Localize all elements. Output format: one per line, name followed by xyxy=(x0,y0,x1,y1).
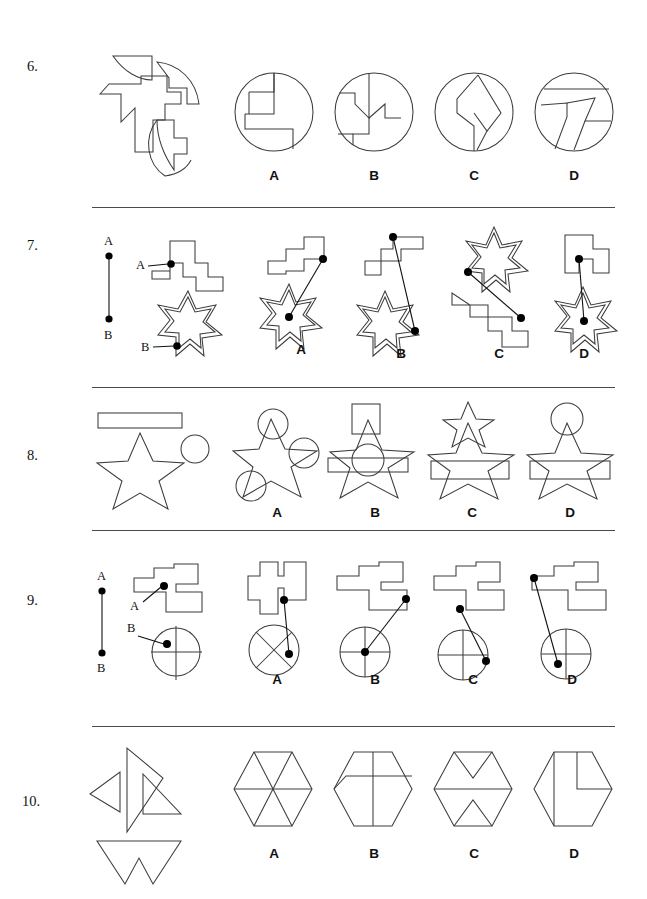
q7-option-a-figure[interactable] xyxy=(258,229,348,359)
q10-option-b-letter: B xyxy=(362,846,386,861)
q10-option-c-figure[interactable] xyxy=(432,748,514,830)
q9-option-d-letter: D xyxy=(560,672,584,687)
q7-option-d-figure[interactable] xyxy=(545,225,630,360)
q7-option-a-letter: A xyxy=(289,342,313,357)
question-number-10: 10. xyxy=(22,793,40,810)
q9-ref-label-a: A xyxy=(97,569,106,583)
q7-option-c-letter: C xyxy=(487,346,511,361)
q8-option-d-figure[interactable] xyxy=(522,399,617,504)
q6-option-d-figure[interactable] xyxy=(533,71,615,153)
question-9-row: 9. A B A B xyxy=(0,530,647,726)
q9-option-c-letter: C xyxy=(461,672,485,687)
q10-option-c-letter: C xyxy=(462,846,486,861)
q7-option-b-figure[interactable] xyxy=(355,225,445,360)
q9-source-figure: A B xyxy=(126,560,221,685)
q6-option-d-letter: D xyxy=(562,168,586,183)
q8-source-figure xyxy=(93,405,213,510)
q8-option-d-letter: D xyxy=(558,505,582,520)
q7-reference-segment: A B xyxy=(95,229,135,349)
q7-ref-label-a: A xyxy=(104,234,113,248)
question-7-row: 7. A B A B xyxy=(0,207,647,387)
q10-option-d-letter: D xyxy=(562,846,586,861)
q8-option-b-letter: B xyxy=(363,505,387,520)
q9-option-a-letter: A xyxy=(265,672,289,687)
q10-option-a-figure[interactable] xyxy=(232,748,314,830)
q9-option-d-figure[interactable] xyxy=(528,558,618,683)
q10-option-a-letter: A xyxy=(262,846,286,861)
question-10-row: 10. A xyxy=(0,726,647,899)
q10-source-figure xyxy=(85,744,195,884)
q9-option-a-figure[interactable] xyxy=(238,558,318,683)
q7-source-figure: A B xyxy=(130,229,235,359)
q9-option-b-letter: B xyxy=(363,672,387,687)
q8-option-c-figure[interactable] xyxy=(424,399,519,504)
q6-option-b-figure[interactable] xyxy=(333,71,415,153)
q9-source-label-a: A xyxy=(130,599,139,613)
q9-source-label-b: B xyxy=(127,621,135,635)
question-number-7: 7. xyxy=(27,237,38,254)
q7-source-label-b: B xyxy=(141,340,149,354)
worksheet-page: 6. A xyxy=(0,0,647,899)
question-8-row: 8. A xyxy=(0,387,647,530)
q9-option-b-figure[interactable] xyxy=(333,558,418,683)
question-number-9: 9. xyxy=(27,592,38,609)
q6-option-b-letter: B xyxy=(362,168,386,183)
q6-source-figure xyxy=(95,42,210,187)
q7-source-label-a: A xyxy=(136,258,145,272)
q7-option-d-letter: D xyxy=(572,346,596,361)
question-6-row: 6. A xyxy=(0,0,647,207)
q8-option-b-figure[interactable] xyxy=(326,402,421,502)
q9-ref-label-b: B xyxy=(97,661,105,675)
q9-option-c-figure[interactable] xyxy=(430,558,515,683)
q6-option-a-letter: A xyxy=(262,168,286,183)
q6-option-c-figure[interactable] xyxy=(433,71,515,153)
q8-option-a-figure[interactable] xyxy=(231,409,321,504)
q6-option-a-figure[interactable] xyxy=(233,71,315,153)
q6-option-c-letter: C xyxy=(462,168,486,183)
question-number-8: 8. xyxy=(27,447,38,464)
q7-option-c-figure[interactable] xyxy=(450,225,545,360)
q10-option-d-figure[interactable] xyxy=(532,748,614,830)
q7-option-b-letter: B xyxy=(389,346,413,361)
q8-option-c-letter: C xyxy=(460,505,484,520)
q8-option-a-letter: A xyxy=(265,505,289,520)
q9-reference-segment: A B xyxy=(88,565,128,685)
q7-ref-label-b: B xyxy=(104,328,112,342)
question-number-6: 6. xyxy=(27,58,38,75)
q10-option-b-figure[interactable] xyxy=(332,748,414,830)
